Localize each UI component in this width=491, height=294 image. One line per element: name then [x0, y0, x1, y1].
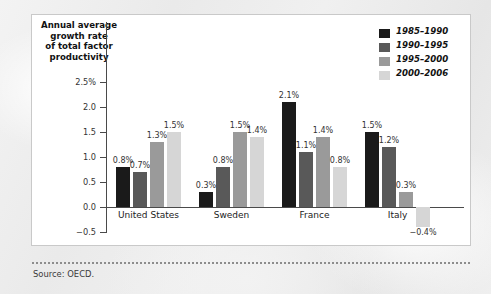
y-axis-tick	[100, 232, 106, 233]
y-axis-tick	[100, 82, 106, 83]
y-axis-tick-label: 1.5	[50, 127, 96, 137]
y-axis-title: Annual average growth rate of total fact…	[36, 20, 122, 62]
legend-swatch	[379, 43, 390, 52]
x-axis-category-label: Italy	[343, 210, 453, 220]
bar-value-label: 1.2%	[372, 136, 406, 145]
bar[interactable]	[316, 137, 330, 207]
legend-label: 1990–1995	[396, 40, 448, 50]
bar[interactable]	[333, 167, 347, 207]
bar[interactable]	[199, 192, 213, 207]
y-axis-line	[106, 22, 107, 233]
bar[interactable]	[250, 137, 264, 207]
chart-figure: Annual average growth rate of total fact…	[0, 0, 491, 294]
bar[interactable]	[133, 172, 147, 207]
y-axis-tick-label: 1.0	[50, 152, 96, 162]
y-axis-tick-label: 2.5%	[50, 77, 96, 87]
y-axis-tick-label: 0.0	[50, 202, 96, 212]
footer-divider	[31, 262, 471, 264]
bar-value-label: 0.3%	[389, 181, 423, 190]
bar[interactable]	[399, 192, 413, 207]
bar[interactable]	[299, 152, 313, 207]
legend-swatch	[379, 71, 390, 80]
bar[interactable]	[216, 167, 230, 207]
bar[interactable]	[233, 132, 247, 207]
y-axis-tick	[100, 107, 106, 108]
legend-label: 2000–2006	[396, 68, 448, 78]
source-note: Source: OECD.	[33, 269, 94, 279]
y-axis-tick-label: 0.5	[50, 177, 96, 187]
zero-baseline	[106, 207, 464, 208]
legend-swatch	[379, 29, 390, 38]
legend-swatch	[379, 57, 390, 66]
bar-value-label: 1.4%	[240, 126, 274, 135]
bar-value-label: −0.4%	[406, 228, 440, 237]
y-axis-tick	[100, 132, 106, 133]
bar-value-label: 1.5%	[355, 121, 389, 130]
bar-value-label: 2.1%	[272, 91, 306, 100]
y-axis-tick	[100, 207, 106, 208]
bar-value-label: 1.4%	[306, 126, 340, 135]
bar[interactable]	[150, 142, 164, 207]
y-axis-tick	[100, 182, 106, 183]
bar[interactable]	[116, 167, 130, 207]
legend-label: 1985–1990	[396, 26, 448, 36]
bar-value-label: 0.8%	[323, 156, 357, 165]
bar[interactable]	[167, 132, 181, 207]
bar-value-label: 1.5%	[157, 121, 191, 130]
legend-label: 1995–2000	[396, 54, 448, 64]
bar[interactable]	[382, 147, 396, 207]
y-axis-tick-label: −0.5	[50, 227, 96, 237]
bar[interactable]	[282, 102, 296, 207]
y-axis-tick-label: 2.0	[50, 102, 96, 112]
